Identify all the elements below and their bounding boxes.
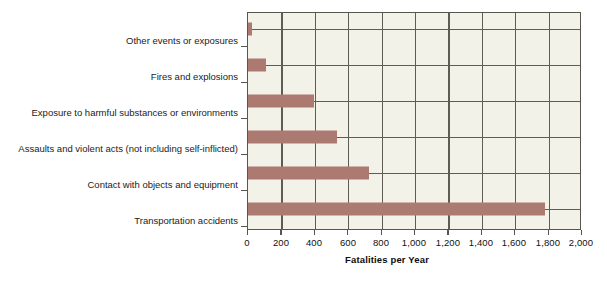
bar-other-events (248, 23, 252, 36)
x-axis-tick-0 (247, 230, 248, 235)
gridline-horizontal-other-events (248, 29, 580, 30)
x-axis-label-1600: 1,600 (502, 237, 526, 248)
gridline-vertical-1800 (549, 13, 550, 229)
x-axis-tick-600 (347, 230, 348, 235)
gridline-vertical-1600 (515, 13, 516, 229)
bar-chart: · · · · · · · Other events or exposures … (0, 0, 607, 281)
scan-artifact-text: · · · · · · · (190, 0, 410, 4)
y-axis-label-transportation: Transportation accidents (134, 215, 238, 226)
x-axis-title-container: Fatalities per Year (0, 254, 607, 265)
x-axis-label-200: 200 (273, 237, 289, 248)
x-axis-tick-200 (280, 230, 281, 235)
x-axis-label-1400: 1,400 (469, 237, 493, 248)
x-axis-label-2000: 2,000 (569, 237, 593, 248)
bar-assaults-violent (248, 131, 337, 144)
gridline-vertical-200 (281, 13, 282, 229)
x-axis-label-1800: 1,800 (536, 237, 560, 248)
x-axis-label-1000: 1,000 (402, 237, 426, 248)
x-axis-label-800: 800 (373, 237, 389, 248)
y-axis-label-other-events: Other events or exposures (126, 35, 238, 46)
gridline-vertical-1400 (482, 13, 483, 229)
x-axis-tick-2000 (581, 230, 582, 235)
gridline-horizontal-fires (248, 65, 580, 66)
x-axis-title: Fatalities per Year (345, 254, 429, 265)
gridline-vertical-600 (348, 13, 349, 229)
x-axis-tick-400 (314, 230, 315, 235)
x-axis-tick-1800 (548, 230, 549, 235)
gridline-vertical-1000 (415, 13, 416, 229)
x-axis-label-0: 0 (244, 237, 249, 248)
gridline-vertical-1200 (448, 13, 449, 229)
y-axis-label-exposure-harmful: Exposure to harmful substances or enviro… (32, 107, 238, 118)
x-axis-label-400: 400 (306, 237, 322, 248)
gridline-vertical-400 (315, 13, 316, 229)
y-axis-label-fires-explosions: Fires and explosions (151, 71, 238, 82)
y-axis-label-assaults-violent: Assaults and violent acts (not including… (18, 143, 238, 154)
y-axis-label-contact-objects: Contact with objects and equipment (87, 179, 238, 190)
x-axis-tick-1000 (414, 230, 415, 235)
x-axis-tick-1400 (481, 230, 482, 235)
bar-contact-objects (248, 167, 369, 180)
x-axis-label-600: 600 (340, 237, 356, 248)
bar-transportation (248, 203, 545, 216)
bar-exposure-harmful (248, 95, 314, 108)
gridline-vertical-800 (382, 13, 383, 229)
x-axis-tick-1200 (447, 230, 448, 235)
x-axis-tick-1600 (514, 230, 515, 235)
bar-fires-explosions (248, 59, 266, 72)
plot-area (247, 12, 581, 230)
x-axis-label-1200: 1,200 (436, 237, 460, 248)
x-axis-tick-800 (381, 230, 382, 235)
y-axis-category-labels: Other events or exposures Fires and expl… (0, 12, 243, 230)
